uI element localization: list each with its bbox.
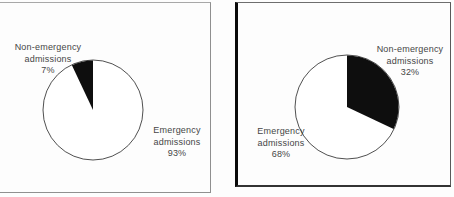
- label-line: Non-emergency: [369, 44, 451, 56]
- label-line: admissions: [239, 138, 323, 150]
- label-line: Emergency: [239, 126, 323, 138]
- label-line: admissions: [135, 137, 219, 149]
- figure-canvas: Non-emergency admissions 7% Emergency ad…: [0, 0, 454, 197]
- pie-panel-left: Non-emergency admissions 7% Emergency ad…: [0, 2, 211, 193]
- label-emergency-68: Emergency admissions 68%: [239, 126, 323, 161]
- label-non-emergency-7: Non-emergency admissions 7%: [6, 42, 90, 77]
- label-line: 93%: [135, 148, 219, 160]
- label-line: admissions: [369, 56, 451, 68]
- pie-chart-left: [0, 3, 209, 192]
- pie-panel-right: Non-emergency admissions 32% Emergency a…: [235, 2, 451, 187]
- label-line: 7%: [6, 65, 90, 77]
- label-line: 68%: [239, 149, 323, 161]
- label-emergency-93: Emergency admissions 93%: [135, 125, 219, 160]
- label-line: Non-emergency: [6, 42, 90, 54]
- label-line: Emergency: [135, 125, 219, 137]
- label-line: admissions: [6, 54, 90, 66]
- label-line: 32%: [369, 67, 451, 79]
- label-non-emergency-32: Non-emergency admissions 32%: [369, 44, 451, 79]
